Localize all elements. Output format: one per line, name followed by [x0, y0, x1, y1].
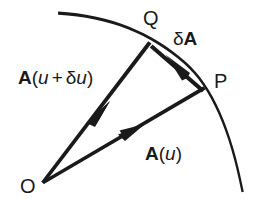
figure-canvas [0, 0, 256, 211]
vector-delta-a [150, 45, 205, 93]
point-label-p: P [214, 71, 228, 91]
u-glyph: u [165, 143, 176, 164]
u-glyph: u [38, 67, 49, 88]
delta-glyph: δ [66, 67, 77, 88]
delta-glyph: δ [173, 28, 184, 49]
close-paren-glyph: ) [87, 67, 93, 88]
vector-a-u [42, 86, 205, 184]
vector-label-a-u-plus-delta-u: A(u+δu) [18, 68, 93, 87]
vector-derivative-figure: Q P O δA A(u+δu) A(u) [0, 0, 256, 211]
vector-label-delta-a: δA [173, 29, 197, 48]
vector-a-u-plus-delta-u [41, 41, 151, 184]
bold-a-glyph: A [18, 67, 32, 88]
point-label-o: O [20, 176, 36, 196]
bold-a-glyph: A [145, 143, 159, 164]
vector-label-a-u: A(u) [145, 144, 182, 163]
plus-glyph: + [49, 67, 66, 88]
bold-a-glyph: A [184, 28, 198, 49]
vector-a-u-plus-delta-u-shaft [41, 41, 151, 184]
close-paren-glyph: ) [176, 143, 182, 164]
u-glyph-2: u [76, 67, 87, 88]
vector-delta-a-arrowhead-lower-icon [166, 55, 187, 81]
point-label-q: Q [143, 8, 159, 28]
trajectory-arc-icon [58, 12, 244, 193]
